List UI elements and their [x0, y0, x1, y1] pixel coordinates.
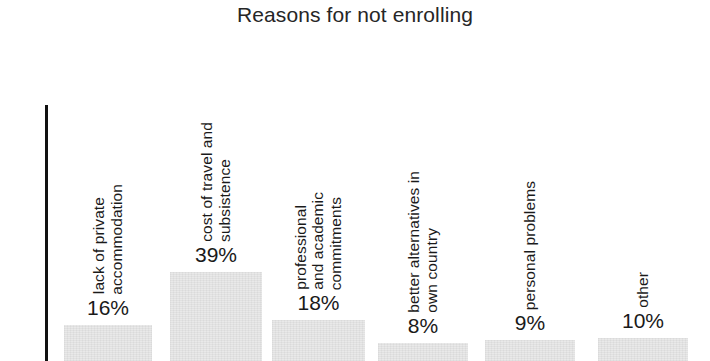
- bar-category-label: lack of privateaccommodation: [64, 145, 152, 295]
- bar-category-label-line: own country: [424, 228, 440, 313]
- bar-value-label: 39%: [170, 243, 262, 267]
- bar-category-label-line: subsistence: [217, 159, 233, 242]
- bar-category-label: other: [598, 158, 688, 308]
- bar-category-label: cost of travel andsubsistence: [170, 92, 262, 242]
- bar-rect: [598, 338, 688, 361]
- bar-chart-figure: Reasons for not enrolling 16%lack of pri…: [0, 0, 710, 361]
- bar-category-label-line: cost of travel and: [199, 122, 215, 242]
- bar-group: 9%personal problems: [485, 0, 575, 361]
- bar-category-label-line: personal problems: [522, 181, 538, 310]
- bar-rect: [64, 325, 152, 361]
- bar-value-label: 18%: [272, 291, 365, 315]
- bar-rect: [170, 272, 262, 361]
- bar-category-label-line: professional: [293, 205, 309, 290]
- bar-category-label: professionaland academiccommitments: [272, 140, 365, 290]
- bar-rect: [485, 340, 575, 361]
- bar-value-label: 10%: [598, 309, 688, 333]
- bar-rect: [378, 343, 468, 361]
- bar-group: 8%better alternatives inown country: [378, 0, 468, 361]
- bar-group: 10%other: [598, 0, 688, 361]
- bar-rect: [272, 320, 365, 361]
- bar-value-label: 9%: [485, 311, 575, 335]
- plot-area: 16%lack of privateaccommodation39%cost o…: [0, 0, 710, 361]
- bar-group: 18%professionaland academiccommitments: [272, 0, 365, 361]
- bar-category-label-line: commitments: [328, 197, 344, 290]
- bar-group: 39%cost of travel andsubsistence: [170, 0, 262, 361]
- bar-category-label: better alternatives inown country: [378, 163, 468, 313]
- bar-value-label: 16%: [64, 296, 152, 320]
- bar-category-label-line: lack of private: [91, 197, 107, 294]
- bar-category-label-line: other: [635, 272, 651, 308]
- bar-category-label-line: and academic: [310, 192, 326, 290]
- bar-value-label: 8%: [378, 314, 468, 338]
- bar-group: 16%lack of privateaccommodation: [64, 0, 152, 361]
- bar-category-label-line: better alternatives in: [406, 171, 422, 313]
- bar-category-label: personal problems: [485, 160, 575, 310]
- bar-category-label-line: accommodation: [109, 184, 125, 295]
